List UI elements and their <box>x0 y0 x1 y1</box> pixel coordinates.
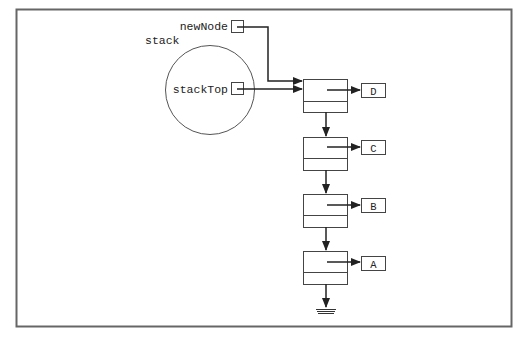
node-a-value: A <box>370 259 377 271</box>
node-a: A <box>304 252 386 308</box>
node-b: B <box>304 195 386 251</box>
stack-top-label: stackTop <box>173 83 228 96</box>
node-b-value: B <box>370 201 376 213</box>
stack-label: stack <box>145 34 180 47</box>
node-c-value: C <box>370 143 376 155</box>
null-ground-icon <box>316 310 336 314</box>
stack-diagram: stack newNode stackTop D C B <box>0 0 522 340</box>
node-d: D <box>304 80 386 137</box>
diagram-frame <box>17 10 512 327</box>
new-node-label: newNode <box>180 20 228 33</box>
new-node-arrow <box>237 27 302 81</box>
node-d-value: D <box>370 86 376 98</box>
node-c: C <box>304 138 386 194</box>
